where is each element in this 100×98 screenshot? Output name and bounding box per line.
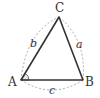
vertex-b-label: B (85, 75, 94, 89)
side-a-label: a (76, 38, 83, 51)
triangle-diagram: C A B b a c (0, 0, 100, 98)
side-b-label: b (30, 37, 37, 50)
side-c-label: c (49, 84, 55, 97)
vertex-a-label: A (7, 75, 17, 89)
vertex-c-label: C (55, 1, 64, 15)
